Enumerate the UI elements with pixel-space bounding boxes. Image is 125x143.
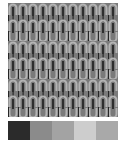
color-palette: [8, 121, 118, 140]
palette-swatch: [52, 121, 74, 140]
palette-swatch: [74, 121, 96, 140]
palette-swatch: [30, 121, 52, 140]
palette-swatch: [8, 121, 30, 140]
pattern-graphic: [8, 3, 118, 117]
seamless-pattern: [8, 3, 118, 117]
palette-swatch: [96, 121, 118, 140]
